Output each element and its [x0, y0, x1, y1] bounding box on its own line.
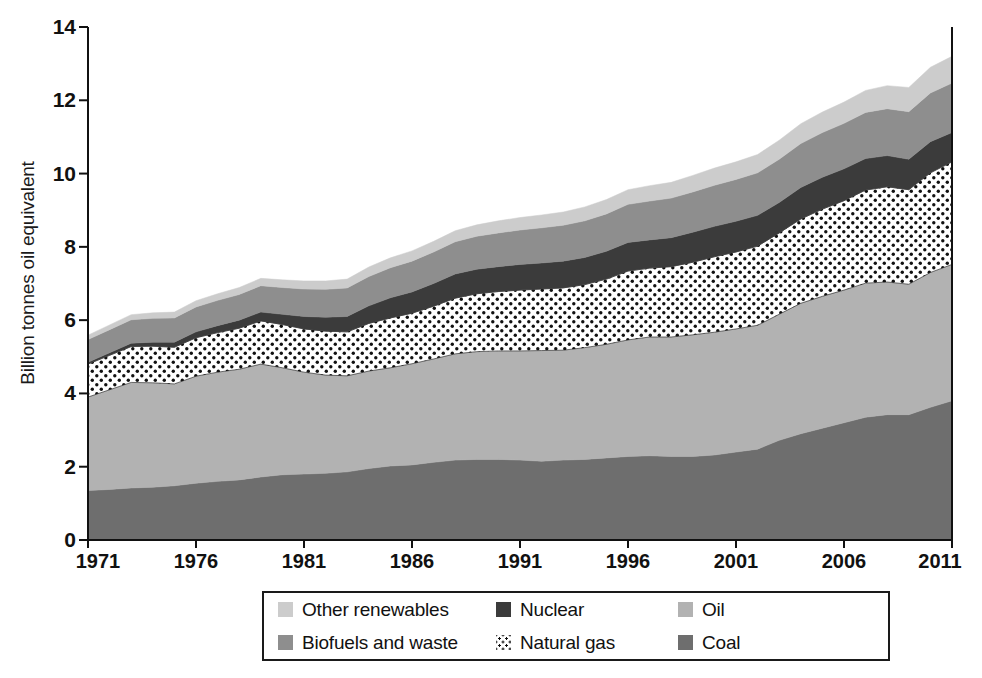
legend-swatch-icon	[678, 602, 693, 617]
legend-item: Oil	[678, 593, 798, 626]
legend-label: Natural gas	[520, 632, 615, 654]
legend-row-top: Other renewablesNuclearOil	[264, 593, 888, 626]
legend-item: Other renewables	[278, 593, 496, 626]
legend-item: Nuclear	[496, 593, 678, 626]
legend-item: Natural gas	[496, 626, 678, 659]
legend-item: Coal	[678, 626, 798, 659]
legend-label: Oil	[702, 599, 725, 621]
legend-swatch-icon	[278, 602, 293, 617]
stacked-area-plot	[0, 0, 982, 678]
legend-swatch-icon	[496, 635, 511, 650]
legend-item: Biofuels and waste	[278, 626, 496, 659]
chart-legend: Other renewablesNuclearOil Biofuels and …	[262, 591, 890, 661]
chart-container: Billion tonnes oil equivalent 0246810121…	[0, 0, 982, 678]
legend-swatch-icon	[496, 602, 511, 617]
legend-swatch-icon	[678, 635, 693, 650]
legend-label: Coal	[702, 632, 740, 654]
legend-label: Nuclear	[520, 599, 584, 621]
legend-label: Biofuels and waste	[302, 632, 458, 654]
legend-row-bottom: Biofuels and wasteNatural gasCoal	[264, 626, 888, 659]
legend-label: Other renewables	[302, 599, 449, 621]
legend-swatch-icon	[278, 635, 293, 650]
